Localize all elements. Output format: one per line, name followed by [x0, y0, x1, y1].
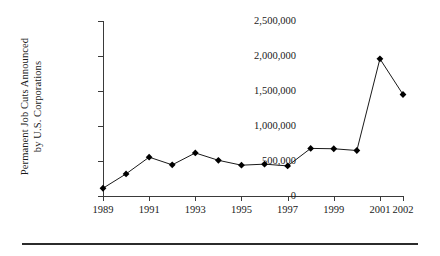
x-axis-tick: [334, 196, 335, 201]
x-axis-tick: [241, 196, 242, 201]
y-axis-title: Permanent Job Cuts Announced by U.S. Cor…: [19, 2, 44, 212]
x-axis-line: [103, 196, 403, 197]
x-axis-tick: [103, 196, 104, 201]
data-series-line: [103, 21, 403, 196]
data-point-marker: [192, 150, 199, 157]
series-polyline: [103, 59, 403, 188]
data-point-marker: [400, 91, 407, 98]
data-point-marker: [100, 185, 107, 192]
data-point-marker: [238, 162, 245, 169]
x-axis-tick: [149, 196, 150, 201]
y-axis-title-line-2: by U.S. Corporations: [31, 2, 44, 212]
x-axis-tick-label: 1991: [139, 204, 160, 215]
data-point-marker: [330, 145, 337, 152]
data-point-marker: [146, 154, 153, 161]
plot-area: 0500,0001,000,0001,500,0002,000,0002,500…: [103, 21, 403, 196]
data-point-marker: [169, 161, 176, 168]
data-point-marker: [353, 147, 360, 154]
x-axis-tick-label: 2001: [369, 204, 390, 215]
data-point-marker: [123, 170, 130, 177]
x-axis-tick-label: 1989: [93, 204, 114, 215]
data-point-marker: [215, 157, 222, 164]
data-point-marker: [261, 161, 268, 168]
x-axis-tick: [403, 196, 404, 201]
data-point-marker: [377, 55, 384, 62]
x-axis-tick: [380, 196, 381, 201]
x-axis-tick-label: 1993: [185, 204, 206, 215]
x-axis-tick-label: 2002: [393, 204, 414, 215]
x-axis-tick-label: 1997: [277, 204, 298, 215]
x-axis-tick-label: 1995: [231, 204, 252, 215]
y-axis-title-line-1: Permanent Job Cuts Announced: [19, 38, 30, 175]
bottom-rule: [22, 243, 418, 245]
x-axis-tick: [288, 196, 289, 201]
x-axis-tick: [195, 196, 196, 201]
chart-figure: Permanent Job Cuts Announced by U.S. Cor…: [0, 0, 440, 256]
x-axis-tick-label: 1999: [323, 204, 344, 215]
